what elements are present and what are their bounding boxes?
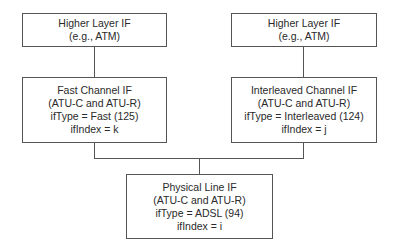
node-ifindex: ifIndex = i [177,220,222,233]
node-iftype: ifType = ADSL (94) [155,207,243,220]
node-ifindex: ifIndex = k [70,123,118,136]
node-iftype: ifType = Fast (125) [51,110,139,123]
node-detail: (e.g., ATM) [69,30,120,43]
node-detail: (ATU-C and ATU-R) [48,97,140,110]
node-title: Fast Channel IF [57,84,132,97]
connector-higher-right-to-interleaved [303,47,304,77]
node-title: Higher Layer IF [58,17,130,30]
node-title: Higher Layer IF [268,17,340,30]
connector-higher-left-to-fast [94,47,95,77]
higher-layer-if-right-box: Higher Layer IF (e.g., ATM) [231,13,377,47]
physical-line-if-box: Physical Line IF (ATU-C and ATU-R) ifTyp… [126,174,273,239]
node-detail: (e.g., ATM) [278,30,329,43]
connector-interleaved-down [303,143,304,159]
higher-layer-if-left-box: Higher Layer IF (e.g., ATM) [22,13,167,47]
connector-fast-down [94,143,95,159]
node-detail: (ATU-C and ATU-R) [153,194,245,207]
node-iftype: ifType = Interleaved (124) [244,110,363,123]
connector-join-to-physical [199,158,200,174]
node-title: Interleaved Channel IF [251,84,357,97]
node-ifindex: ifIndex = j [281,123,326,136]
node-title: Physical Line IF [162,181,236,194]
node-detail: (ATU-C and ATU-R) [258,97,350,110]
fast-channel-if-box: Fast Channel IF (ATU-C and ATU-R) ifType… [22,77,167,143]
interleaved-channel-if-box: Interleaved Channel IF (ATU-C and ATU-R)… [231,77,377,143]
